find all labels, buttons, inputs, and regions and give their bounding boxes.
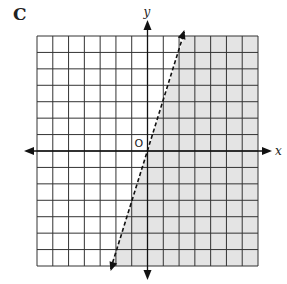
- x-axis-left-arrow-icon: [24, 147, 34, 155]
- coordinate-plane: yxO: [0, 0, 287, 284]
- y-axis-down-arrow-icon: [144, 270, 152, 280]
- x-axis-right-arrow-icon: [262, 147, 272, 155]
- y-axis-label: y: [143, 5, 151, 19]
- x-axis-label: x: [275, 144, 282, 158]
- origin-label: O: [135, 137, 144, 150]
- y-axis-up-arrow-icon: [144, 20, 152, 30]
